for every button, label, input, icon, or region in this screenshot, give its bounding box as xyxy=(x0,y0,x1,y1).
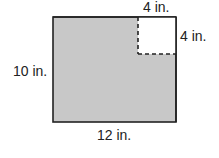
cutout-square xyxy=(138,17,176,54)
width-label: 12 in. xyxy=(97,128,131,142)
cutout-top-label: 4 in. xyxy=(143,0,169,14)
cutout-side-label: 4 in. xyxy=(180,29,206,43)
height-label: 10 in. xyxy=(13,64,47,78)
